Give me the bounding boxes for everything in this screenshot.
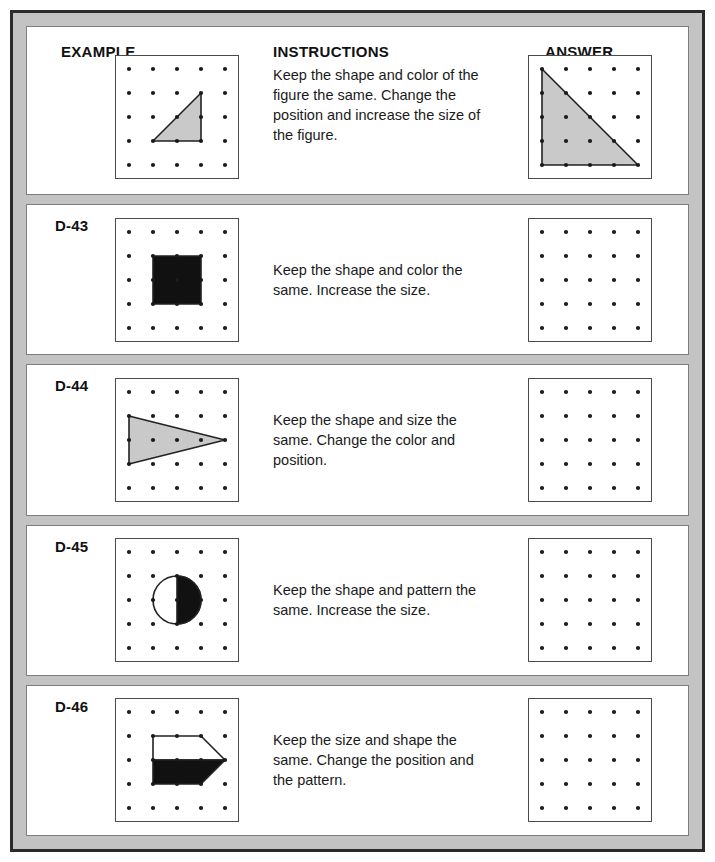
instructions-text: Keep the shape and color the same. Incre…: [273, 260, 485, 300]
figure-column: D-45: [27, 526, 265, 675]
figure-dot-grid-d-44: [115, 378, 239, 502]
answer-column: [498, 526, 688, 675]
answer-dot-grid-d-43: [528, 218, 652, 342]
instructions-text: Keep the shape and size the same. Change…: [273, 410, 485, 470]
answer-column: ANSWER: [498, 27, 688, 194]
row-code-label: D-46: [55, 698, 88, 715]
answer-grid-holder[interactable]: [528, 698, 652, 822]
instructions-text: Keep the shape and pattern the same. Inc…: [273, 580, 485, 620]
figure-grid-holder: [115, 55, 239, 179]
figure-column: D-43: [27, 205, 265, 354]
answer-grid-holder[interactable]: [528, 218, 652, 342]
instructions-column: Keep the size and shape the same. Change…: [265, 686, 498, 835]
answer-dot-grid-d-45: [528, 538, 652, 662]
problem-row-d-43: D-43Keep the shape and color the same. I…: [26, 204, 689, 355]
answer-dot-grid-example: [528, 55, 652, 179]
problem-row-example: EXAMPLEINSTRUCTIONSKeep the shape and co…: [26, 26, 689, 195]
figure-dot-grid-d-45: [115, 538, 239, 662]
problem-row-d-44: D-44Keep the shape and size the same. Ch…: [26, 364, 689, 515]
instructions-column: Keep the shape and size the same. Change…: [265, 365, 498, 514]
answer-dot-grid-d-46: [528, 698, 652, 822]
answer-dot-grid-d-44: [528, 378, 652, 502]
problem-row-d-45: D-45Keep the shape and pattern the same.…: [26, 525, 689, 676]
worksheet-page: EXAMPLEINSTRUCTIONSKeep the shape and co…: [10, 10, 705, 852]
instructions-text: Keep the size and shape the same. Change…: [273, 730, 485, 790]
figure-dot-grid-d-46: [115, 698, 239, 822]
figure-column: EXAMPLE: [27, 27, 265, 194]
row-code-label: D-44: [55, 377, 88, 394]
figure-grid-holder: [115, 538, 239, 662]
instructions-text: Keep the shape and color of the figure t…: [273, 65, 485, 145]
answer-column: [498, 205, 688, 354]
answer-column: [498, 686, 688, 835]
problem-row-d-46: D-46Keep the size and shape the same. Ch…: [26, 685, 689, 836]
figure-column: D-44: [27, 365, 265, 514]
figure-grid-holder: [115, 218, 239, 342]
problem-rows-container: EXAMPLEINSTRUCTIONSKeep the shape and co…: [26, 26, 689, 836]
answer-grid-holder[interactable]: [528, 538, 652, 662]
instructions-column: Keep the shape and pattern the same. Inc…: [265, 526, 498, 675]
figure-grid-holder: [115, 378, 239, 502]
instructions-column: Keep the shape and color the same. Incre…: [265, 205, 498, 354]
instructions-column: INSTRUCTIONSKeep the shape and color of …: [265, 27, 498, 194]
figure-column: D-46: [27, 686, 265, 835]
figure-dot-grid-example: [115, 55, 239, 179]
answer-column: [498, 365, 688, 514]
row-code-label: D-43: [55, 217, 88, 234]
figure-grid-holder: [115, 698, 239, 822]
instructions-heading: INSTRUCTIONS: [273, 43, 389, 60]
answer-grid-holder[interactable]: [528, 55, 652, 179]
row-code-label: D-45: [55, 538, 88, 555]
figure-dot-grid-d-43: [115, 218, 239, 342]
answer-grid-holder[interactable]: [528, 378, 652, 502]
